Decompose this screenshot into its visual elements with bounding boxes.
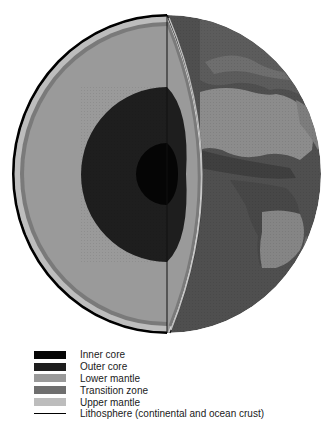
legend-label: Lower mantle: [80, 373, 140, 384]
legend-item-transition-zone: Transition zone: [34, 384, 264, 396]
legend-label: Inner core: [80, 349, 125, 360]
core: [80, 86, 190, 264]
swatch-inner-core: [34, 351, 66, 359]
swatch-lithosphere: [34, 413, 66, 414]
legend-item-upper-mantle: Upper mantle: [34, 396, 264, 408]
legend-item-outer-core: Outer core: [34, 361, 264, 373]
legend-item-lithosphere: Lithosphere (continental and ocean crust…: [34, 408, 264, 420]
swatch-outer-core: [34, 363, 66, 371]
swatch-lower-mantle: [34, 374, 66, 382]
legend-label: Upper mantle: [80, 397, 140, 408]
legend-item-lower-mantle: Lower mantle: [34, 373, 264, 385]
swatch-upper-mantle: [34, 398, 66, 406]
earth-cutaway-diagram: [0, 0, 334, 340]
legend-label: Outer core: [80, 361, 127, 372]
swatch-transition-zone: [34, 386, 66, 394]
legend: Inner core Outer core Lower mantle Trans…: [34, 349, 264, 420]
legend-label: Lithosphere (continental and ocean crust…: [80, 408, 264, 419]
legend-label: Transition zone: [80, 385, 148, 396]
legend-item-inner-core: Inner core: [34, 349, 264, 361]
